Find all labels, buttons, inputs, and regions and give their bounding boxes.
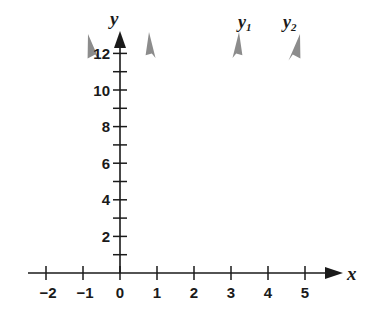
curve-y2-right-arrow-icon [289, 34, 301, 61]
y-axis-group [113, 31, 127, 273]
x-tick-label-1: 1 [149, 284, 165, 302]
y-tick-label-10: 10 [79, 82, 110, 100]
y-tick-label-8: 8 [88, 118, 110, 136]
y-axis-arrow-icon [114, 31, 126, 48]
coordinate-plane [0, 0, 368, 328]
curve-y2 [96, 75, 293, 255]
x-tick-label--2: −2 [38, 284, 58, 302]
curve-label-y1: y1 [238, 12, 252, 33]
y-tick-label-2: 2 [88, 228, 110, 246]
x-tick-label-2: 2 [186, 284, 202, 302]
x-axis-arrow-icon [325, 267, 343, 279]
parabola-graph-figure: −2 −1 0 1 2 3 4 5 2 4 6 8 10 12 y x [0, 0, 368, 328]
x-tick-label-0: 0 [112, 284, 128, 302]
curve-y1 [152, 64, 236, 255]
x-axis-label: x [347, 263, 357, 285]
x-tick-label-5: 5 [297, 284, 313, 302]
curve-y1-left-arrow-icon [146, 32, 156, 58]
y-tick-label-6: 6 [88, 155, 110, 173]
series-y1-group [146, 32, 243, 255]
curve-y1-right-arrow-icon [233, 32, 243, 58]
x-tick-label--1: −1 [75, 284, 95, 302]
x-tick-label-3: 3 [223, 284, 239, 302]
x-tick-label-4: 4 [260, 284, 276, 302]
curve-label-y2: y2 [283, 12, 297, 33]
x-axis-group [28, 266, 343, 280]
y-axis-label: y [110, 8, 118, 30]
y-tick-label-12: 12 [79, 45, 110, 63]
y-tick-label-4: 4 [88, 191, 110, 209]
